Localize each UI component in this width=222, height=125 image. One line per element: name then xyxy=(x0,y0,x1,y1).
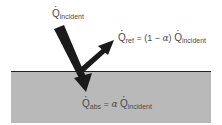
reflected-coef-prefix: (1 − xyxy=(144,33,160,43)
incident-label: Qincident xyxy=(52,9,84,20)
absorbed-rhs-symbol: Q xyxy=(120,99,128,109)
reflected-arrow-icon xyxy=(80,40,114,72)
absorbed-subscript: abs xyxy=(90,103,101,110)
incident-arrow-icon xyxy=(54,25,92,92)
incident-subscript: incident xyxy=(60,13,84,20)
reflected-subscript: ref xyxy=(126,37,134,44)
reflected-rhs-symbol: Q xyxy=(174,33,182,43)
absorbed-symbol: Q xyxy=(82,99,90,109)
absorbed-equals: = xyxy=(104,99,109,109)
reflected-symbol: Q xyxy=(118,33,126,43)
reflected-label: Qref = (1 − α) Qincident xyxy=(118,33,206,44)
reflected-coef-suffix: ) xyxy=(169,33,172,43)
absorbed-rhs-subscript: incident xyxy=(128,103,152,110)
absorbed-label: Qabs = α Qincident xyxy=(82,99,152,110)
reflected-equals: = xyxy=(136,33,141,43)
absorbed-alpha: α xyxy=(111,99,117,109)
incident-symbol: Q xyxy=(52,9,60,19)
radiation-diagram: Qincident Qref = (1 − α) Qincident Qabs … xyxy=(0,0,222,125)
reflected-rhs-subscript: incident xyxy=(182,37,206,44)
